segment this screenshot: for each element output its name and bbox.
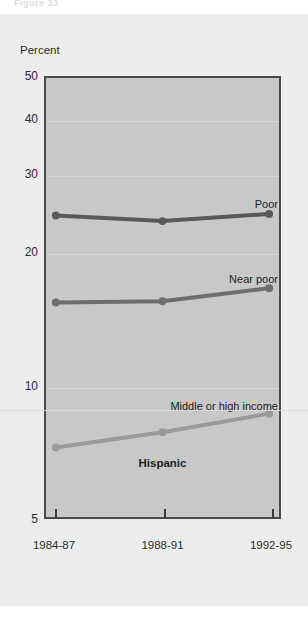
y-axis-title: Percent: [20, 44, 60, 56]
data-point: [265, 210, 273, 218]
x-tickmark: [272, 509, 274, 518]
x-tick-label: 1984-87: [33, 539, 75, 551]
y-tick-label: 50: [12, 69, 38, 83]
data-point: [265, 284, 273, 292]
y-tick-label: 20: [12, 245, 38, 259]
data-point: [159, 297, 167, 305]
x-tick-label: 1988-91: [141, 539, 183, 551]
data-point: [52, 212, 60, 220]
data-point: [52, 299, 60, 307]
data-point: [159, 217, 167, 225]
series-lines: [46, 78, 279, 517]
figure-number: Figure 33: [14, 0, 59, 8]
series-label: Poor: [255, 198, 278, 210]
x-tickmark: [164, 509, 166, 518]
page-fold-line: [0, 410, 308, 411]
y-tick-label: 40: [12, 112, 38, 126]
y-tick-label: 30: [12, 167, 38, 181]
chart-panel: Percent 51020304050 PoorNear poorMiddle …: [0, 14, 308, 606]
data-point: [159, 428, 167, 436]
data-point: [52, 443, 60, 451]
x-tick-label: 1992-95: [250, 539, 292, 551]
plot-area: PoorNear poorMiddle or high income Hispa…: [44, 76, 281, 519]
y-tick-label: 10: [12, 379, 38, 393]
y-tick-label: 5: [12, 512, 38, 526]
series-label: Near poor: [229, 273, 278, 285]
x-tickmark: [55, 509, 57, 518]
group-label: Hispanic: [139, 457, 187, 469]
